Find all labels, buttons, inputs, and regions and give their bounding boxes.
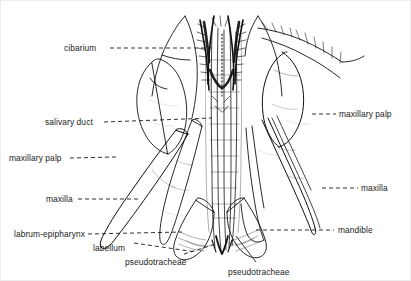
anatomical-figure: cibarium salivary duct maxillary palp ma… [0,0,411,281]
leader-labrum-epipharynx [88,232,182,234]
leader-pseudotracheae-l [184,244,216,254]
label-pseudotracheae-right: pseudotracheae [228,268,289,277]
label-maxillary-palp-left: maxillary palp [9,154,62,163]
label-maxilla-left: maxilla [46,195,73,204]
leader-pseudotracheae-r [236,236,256,262]
label-cibarium: cibarium [64,44,96,53]
label-pseudotracheae-left: pseudotracheae [125,258,186,267]
label-maxillary-palp-right: maxillary palp [339,110,392,119]
label-salivary-duct: salivary duct [45,118,93,127]
leader-salivary-duct [104,118,212,122]
label-labrum-epipharynx: labrum-epipharynx [14,230,85,239]
label-mandible: mandible [338,226,373,235]
leader-maxillary-palp-l [70,157,116,158]
leader-labellum [134,243,196,252]
label-maxilla-right: maxilla [361,184,388,193]
label-labellum: labellum [93,244,125,253]
